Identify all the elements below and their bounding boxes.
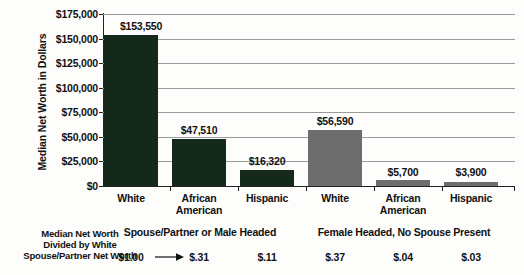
group-label-female-headed-no-spouse-present: Female Headed, No Spouse Present <box>318 226 491 238</box>
ratio-note-line: Median Net Worth <box>4 228 156 239</box>
y-tick-label: $175,000 <box>56 8 98 20</box>
bar-value-label: $47,510 <box>181 124 218 136</box>
ratio-value-white-2: $.37 <box>325 251 345 263</box>
category-label-african-american-2: African American <box>380 193 426 216</box>
gridline <box>103 63 515 64</box>
x-tick-mark <box>442 186 443 191</box>
bar-value-label: $16,320 <box>249 155 286 167</box>
bar-african-american-female-headed <box>376 180 430 186</box>
category-label-line: African <box>380 193 426 205</box>
gridline <box>103 112 515 113</box>
category-label-line: Hispanic <box>450 193 492 205</box>
gridline <box>103 14 515 15</box>
y-tick-label: $0 <box>87 180 98 192</box>
x-tick-mark <box>170 186 171 191</box>
x-tick-mark <box>514 186 515 191</box>
category-label-line: Hispanic <box>246 193 288 205</box>
category-label-line: African <box>176 193 222 205</box>
bar-hispanic-spouse-partner <box>240 170 294 186</box>
x-tick-mark <box>306 186 307 191</box>
ratio-value-white-1: $1.00 <box>118 251 143 263</box>
y-tick-label: $25,000 <box>61 155 98 167</box>
ratio-value-african-american-1: $.31 <box>189 251 209 263</box>
y-tick-label: $75,000 <box>61 106 98 118</box>
bar-african-american-spouse-partner <box>172 139 226 186</box>
x-tick-mark <box>238 186 239 191</box>
bar-value-label: $5,700 <box>388 166 419 178</box>
bar-hispanic-female-headed <box>444 182 498 186</box>
category-label-white-2: White <box>321 193 349 205</box>
gridline <box>103 39 515 40</box>
arrow-right-icon <box>155 252 185 262</box>
bar-value-label: $3,900 <box>456 166 487 178</box>
category-label-line: White <box>117 193 145 205</box>
x-axis-line <box>103 186 515 187</box>
y-tick-label: $100,000 <box>56 82 98 94</box>
category-label-line: American <box>380 205 426 217</box>
bar-value-label: $56,590 <box>317 115 354 127</box>
bar-value-label: $153,550 <box>120 20 162 32</box>
ratio-note-line: Divided by White <box>4 239 156 250</box>
y-tick-label: $150,000 <box>56 33 98 45</box>
category-label-line: White <box>321 193 349 205</box>
x-tick-mark <box>374 186 375 191</box>
ratio-value-hispanic-2: $.03 <box>461 251 481 263</box>
gridline <box>103 88 515 89</box>
ratio-value-hispanic-1: $.11 <box>257 251 276 263</box>
ratio-value-african-american-2: $.04 <box>393 251 413 263</box>
y-axis-tick-labels: $175,000 $150,000 $125,000 $100,000 $75,… <box>38 0 98 195</box>
category-label-white-1: White <box>117 193 145 205</box>
bar-white-spouse-partner <box>104 35 158 186</box>
category-label-line: American <box>176 205 222 217</box>
category-label-hispanic-1: Hispanic <box>246 193 288 205</box>
category-label-hispanic-2: Hispanic <box>450 193 492 205</box>
bar-white-female-headed <box>308 130 362 186</box>
y-tick-label: $50,000 <box>61 131 98 143</box>
y-tick-label: $125,000 <box>56 57 98 69</box>
plot-area <box>103 14 515 186</box>
net-worth-bar-chart: Median Net Worth in Dollars $175,000 $15… <box>0 0 524 275</box>
category-label-african-american-1: African American <box>176 193 222 216</box>
